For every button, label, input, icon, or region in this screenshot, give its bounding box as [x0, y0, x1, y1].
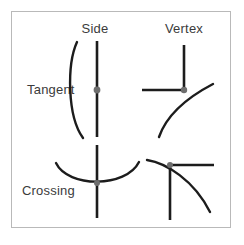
contact-point-dot: [167, 162, 173, 168]
cell-tangent-side: [58, 38, 120, 142]
contact-point-dot: [181, 87, 187, 93]
tangent-curve: [70, 42, 83, 138]
cell-tangent-vertex: [140, 42, 220, 140]
column-header-side: Side: [62, 21, 128, 36]
crossing-curve: [147, 160, 210, 212]
contact-point-dot: [94, 87, 101, 94]
figure-root: Side Vertex Tangent Crossing: [0, 0, 244, 245]
column-header-vertex: Vertex: [148, 21, 220, 36]
cell-crossing-side: [52, 142, 144, 220]
contact-point-dot: [94, 180, 100, 186]
cell-crossing-vertex: [144, 146, 224, 224]
